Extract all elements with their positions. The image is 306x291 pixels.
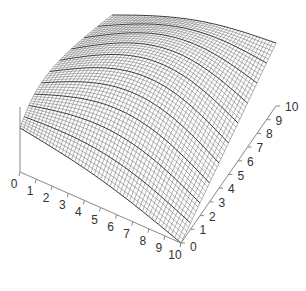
x-tick-label: 8 bbox=[139, 234, 146, 248]
x-tick-label: 3 bbox=[59, 198, 66, 212]
y-axis-ticks: 012345678910 bbox=[181, 100, 299, 254]
x-tick-label: 9 bbox=[156, 241, 163, 255]
x-tick-label: 5 bbox=[91, 213, 98, 227]
y-tick-label: 3 bbox=[219, 196, 226, 210]
y-tick-label: 5 bbox=[238, 169, 245, 183]
x-tick-label: 10 bbox=[168, 248, 182, 262]
x-tick-label: 6 bbox=[107, 220, 114, 234]
y-tick-label: 9 bbox=[276, 114, 283, 128]
y-tick-label: 10 bbox=[285, 100, 299, 114]
y-tick-label: 6 bbox=[247, 155, 254, 169]
x-tick-label: 7 bbox=[123, 227, 130, 241]
y-tick-label: 0 bbox=[190, 240, 197, 254]
x-axis-ticks: 012345678910 bbox=[11, 172, 182, 262]
y-tick-label: 4 bbox=[228, 182, 235, 196]
surface-plot: 012345678910 012345678910 bbox=[0, 0, 306, 291]
y-tick-label: 2 bbox=[209, 210, 216, 224]
y-tick-label: 7 bbox=[257, 141, 264, 155]
y-tick-label: 8 bbox=[266, 127, 273, 141]
x-tick-label: 0 bbox=[11, 177, 18, 191]
y-tick-label: 1 bbox=[200, 223, 207, 237]
x-tick-label: 2 bbox=[43, 191, 50, 205]
x-tick-label: 1 bbox=[27, 184, 34, 198]
x-tick-label: 4 bbox=[75, 205, 82, 219]
